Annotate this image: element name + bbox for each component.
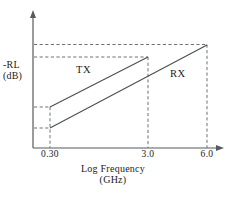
series-line-tx: [50, 57, 148, 107]
series-label-tx: TX: [76, 64, 91, 75]
y-axis-title-line1: -RL: [3, 60, 37, 71]
x-axis-title-line1: Log Frequency: [81, 163, 145, 174]
series-label-rx: RX: [170, 68, 186, 79]
y-axis-title: -RL (dB): [3, 60, 37, 81]
x-tick-label-030: 0.30: [32, 150, 68, 160]
return-loss-chart: -RL (dB) 0.30 3.0 6.0 TX RX Log Frequenc…: [0, 0, 226, 198]
x-tick-label-30: 3.0: [130, 150, 166, 160]
x-axis-title-line2: (GHz): [48, 175, 178, 186]
y-axis-title-line2: (dB): [3, 71, 37, 82]
y-axis-arrowhead: [30, 10, 36, 18]
x-axis-title: Log Frequency (GHz): [48, 164, 178, 185]
x-tick-label-60: 6.0: [189, 150, 225, 160]
